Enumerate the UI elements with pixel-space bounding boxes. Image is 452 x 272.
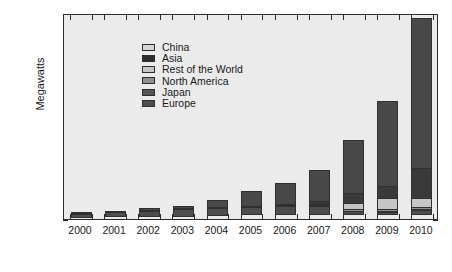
- x-tick-mark-top: [126, 15, 127, 20]
- bar-2003: [173, 206, 194, 219]
- bar-segment: [275, 206, 296, 215]
- x-tick-mark-top: [160, 15, 161, 20]
- legend-item-europe[interactable]: Europe: [142, 98, 243, 109]
- y-tick-mark-right: [433, 220, 438, 221]
- x-tick-mark-top: [194, 15, 195, 20]
- x-tick-mark-top: [433, 15, 434, 20]
- x-tick-mark-top: [104, 15, 105, 20]
- bar-segment: [377, 212, 398, 216]
- x-tick-mark-top: [343, 15, 344, 20]
- legend-label: Rest of the World: [162, 64, 243, 75]
- bar-segment: [241, 191, 262, 206]
- bar-2009: [377, 101, 398, 219]
- x-tick-mark-top: [377, 15, 378, 20]
- bar-segment: [105, 212, 126, 217]
- legend-swatch-icon: [142, 100, 155, 107]
- x-tick-mark-top: [399, 15, 400, 20]
- legend-swatch-icon: [142, 89, 155, 96]
- y-axis-title: Megawatts: [34, 4, 46, 164]
- x-tick-mark-bottom: [399, 214, 400, 219]
- legend-label: China: [162, 42, 189, 53]
- legend-item-rest-of-the-world[interactable]: Rest of the World: [142, 64, 243, 75]
- x-tick-mark-top: [331, 15, 332, 20]
- bar-2004: [207, 200, 228, 219]
- bar-2010: [411, 18, 432, 219]
- bar-segment: [377, 101, 398, 187]
- legend-label: Asia: [162, 53, 182, 64]
- x-tick-mark-bottom: [365, 214, 366, 219]
- legend-item-asia[interactable]: Asia: [142, 53, 243, 64]
- bar-2001: [105, 211, 126, 219]
- bar-segment: [411, 18, 432, 168]
- x-tick-mark-top: [92, 15, 93, 20]
- x-tick-mark-bottom: [92, 214, 93, 219]
- x-tick-mark-top: [275, 15, 276, 20]
- bar-2008: [343, 140, 364, 219]
- bar-2005: [241, 191, 262, 219]
- x-tick-mark-top: [309, 15, 310, 20]
- bar-segment: [411, 168, 432, 199]
- x-tick-mark-bottom: [160, 214, 161, 219]
- x-tick-mark-top: [172, 15, 173, 20]
- bar-segment: [275, 183, 296, 204]
- bar-segment: [377, 186, 398, 198]
- bar-2006: [275, 183, 296, 219]
- chart-figure: Megawatts 05,00010,00015,00020,00025,000…: [0, 0, 452, 272]
- x-tick-mark-top: [297, 15, 298, 20]
- bar-segment: [377, 198, 398, 210]
- x-tick-mark-top: [70, 15, 71, 20]
- legend-swatch-icon: [142, 66, 155, 73]
- x-tick-mark-bottom: [331, 214, 332, 219]
- x-tick-mark-top: [241, 15, 242, 20]
- legend-item-north-america[interactable]: North America: [142, 76, 243, 87]
- x-tick-mark-bottom: [194, 214, 195, 219]
- legend-label: Europe: [162, 98, 196, 109]
- x-tick-mark-bottom: [228, 214, 229, 219]
- bar-2002: [139, 208, 160, 219]
- x-tick-mark-bottom: [433, 214, 434, 219]
- bar-segment: [309, 206, 330, 215]
- x-tick-mark-bottom: [126, 214, 127, 219]
- legend-item-china[interactable]: China: [142, 42, 243, 53]
- legend-swatch-icon: [142, 77, 155, 84]
- bar-2000: [71, 212, 92, 219]
- chart-legend: ChinaAsiaRest of the WorldNorth AmericaJ…: [142, 42, 243, 109]
- x-tick-mark-top: [262, 15, 263, 20]
- plot-area: ChinaAsiaRest of the WorldNorth AmericaJ…: [63, 14, 438, 220]
- bar-segment: [139, 211, 160, 217]
- bar-segment: [343, 140, 364, 194]
- bar-segment: [309, 170, 330, 202]
- x-tick-mark-top: [207, 15, 208, 20]
- x-tick-mark-top: [228, 15, 229, 20]
- bar-segment: [207, 208, 228, 216]
- x-tick-mark-top: [138, 15, 139, 20]
- legend-swatch-icon: [142, 55, 155, 62]
- bar-segment: [241, 207, 262, 215]
- bar-segment: [71, 214, 92, 218]
- x-tick-mark-bottom: [262, 214, 263, 219]
- x-tick-mark-top: [365, 15, 366, 20]
- bar-segment: [343, 211, 364, 215]
- legend-swatch-icon: [142, 44, 155, 51]
- x-tick-mark-bottom: [297, 214, 298, 219]
- bar-2007: [309, 170, 330, 219]
- legend-item-japan[interactable]: Japan: [142, 87, 243, 98]
- legend-label: Japan: [162, 87, 191, 98]
- legend-label: North America: [162, 76, 229, 87]
- bar-segment: [411, 210, 432, 215]
- x-tick-label: 2010: [401, 224, 441, 236]
- bar-segment: [173, 209, 194, 216]
- y-tick-mark: [63, 220, 68, 221]
